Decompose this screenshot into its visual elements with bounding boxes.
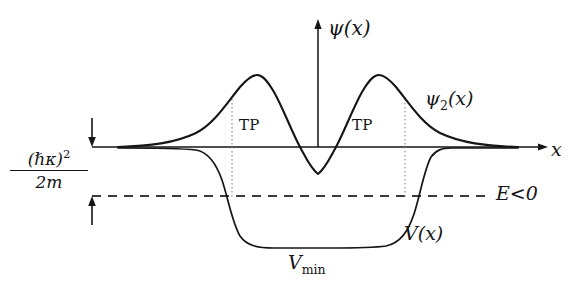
turning-point-label-left: TP	[239, 118, 260, 133]
vmin-symbol: V	[288, 251, 302, 273]
psi2-subscript: 2	[440, 98, 448, 113]
potential-curve-label: V(x)	[404, 224, 443, 243]
potential-curve-vx	[118, 148, 518, 248]
energy-gap-arrow-up-head-icon	[88, 196, 96, 206]
y-axis-arrowhead-icon	[314, 19, 321, 29]
fraction-numerator-base: (ℏκ)	[28, 149, 63, 169]
turning-point-label-right: TP	[352, 118, 373, 133]
fraction-numerator: (ℏκ)2	[10, 149, 88, 169]
psi2-argument: (x)	[448, 87, 474, 109]
vmin-subscript: min	[302, 262, 326, 277]
fraction-denominator: 2m	[10, 173, 88, 191]
psi2-symbol: ψ	[425, 87, 440, 109]
binding-energy-fraction-label: (ℏκ)2 2m	[10, 149, 88, 191]
energy-level-label: E<0	[496, 184, 538, 203]
potential-minimum-label: Vmin	[288, 253, 326, 276]
y-axis-label-psi: ψ(x)	[328, 18, 371, 38]
fraction-numerator-exponent: 2	[63, 147, 70, 161]
wavefunction-label-psi2: ψ2(x)	[425, 89, 473, 112]
x-axis-arrowhead-icon	[538, 143, 548, 150]
energy-gap-arrow-down-head-icon	[88, 137, 96, 147]
x-axis-label: x	[551, 140, 562, 159]
figure-container: ψ(x) ψ2(x) x E<0 V(x) Vmin TP TP (ℏκ)2 2…	[0, 0, 581, 298]
fraction-bar	[10, 170, 88, 172]
